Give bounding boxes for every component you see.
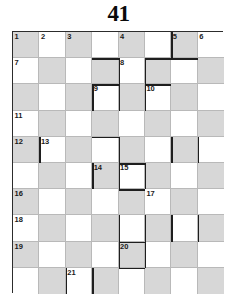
crossword-cell[interactable]	[92, 137, 118, 163]
crossword-cell[interactable]: 10	[145, 84, 171, 110]
crossword-cell[interactable]	[66, 163, 92, 189]
crossword-cell[interactable]	[198, 163, 224, 189]
word-boundary-edge	[171, 215, 173, 241]
crossword-cell[interactable]	[119, 215, 145, 241]
crossword-cell[interactable]	[198, 84, 224, 110]
word-boundary-edge	[145, 84, 147, 110]
crossword-cell[interactable]	[171, 215, 197, 241]
crossword-cell[interactable]	[145, 58, 171, 84]
crossword-cell[interactable]	[145, 137, 171, 163]
crossword-cell[interactable]	[92, 242, 118, 268]
crossword-cell[interactable]: 19	[13, 242, 39, 268]
clue-number: 17	[146, 189, 154, 198]
crossword-cell[interactable]	[145, 268, 171, 294]
word-boundary-edge	[119, 58, 121, 84]
crossword-cell[interactable]	[92, 111, 118, 137]
crossword-cell[interactable]	[39, 215, 65, 241]
word-boundary-edge	[119, 242, 145, 244]
crossword-cell[interactable]: 3	[66, 32, 92, 58]
crossword-cell[interactable]	[145, 163, 171, 189]
crossword-cell[interactable]	[145, 215, 171, 241]
page-title: 41	[0, 1, 237, 26]
crossword-cell[interactable]	[92, 189, 118, 215]
crossword-cell[interactable]: 6	[198, 32, 224, 58]
word-boundary-edge	[119, 163, 121, 189]
crossword-cell[interactable]	[171, 84, 197, 110]
crossword-cell[interactable]	[145, 242, 171, 268]
crossword-cell[interactable]	[92, 215, 118, 241]
crossword-cell[interactable]: 14	[92, 163, 118, 189]
crossword-cell[interactable]	[13, 163, 39, 189]
crossword-cell[interactable]: 15	[119, 163, 145, 189]
crossword-cell[interactable]	[92, 32, 118, 58]
crossword-cell[interactable]	[39, 163, 65, 189]
word-boundary-edge	[92, 58, 118, 60]
crossword-cell[interactable]	[39, 111, 65, 137]
crossword-cell[interactable]	[198, 137, 224, 163]
clue-number: 1	[15, 32, 19, 41]
crossword-cell[interactable]	[171, 189, 197, 215]
crossword-cell[interactable]	[171, 163, 197, 189]
crossword-cell[interactable]	[66, 84, 92, 110]
crossword-cell[interactable]	[66, 111, 92, 137]
crossword-cell[interactable]	[39, 242, 65, 268]
crossword-cell[interactable]	[92, 58, 118, 84]
crossword-cell[interactable]: 4	[119, 32, 145, 58]
crossword-cell[interactable]: 5	[171, 32, 197, 58]
crossword-cell[interactable]: 8	[119, 58, 145, 84]
clue-number: 21	[67, 268, 75, 277]
crossword-cell[interactable]: 11	[13, 111, 39, 137]
word-boundary-edge	[119, 242, 121, 268]
crossword-cell[interactable]: 13	[39, 137, 65, 163]
crossword-grid-border: 123456789101112131415161718192021	[12, 31, 223, 293]
word-boundary-edge	[92, 163, 94, 189]
crossword-cell[interactable]	[145, 32, 171, 58]
crossword-cell[interactable]	[39, 268, 65, 294]
crossword-cell[interactable]	[171, 242, 197, 268]
crossword-cell[interactable]	[66, 215, 92, 241]
crossword-cell[interactable]	[39, 189, 65, 215]
crossword-cell[interactable]	[119, 268, 145, 294]
crossword-cell[interactable]	[198, 111, 224, 137]
crossword-cell[interactable]	[171, 268, 197, 294]
crossword-cell[interactable]: 9	[92, 84, 118, 110]
crossword-cell[interactable]	[171, 58, 197, 84]
crossword-cell[interactable]	[145, 111, 171, 137]
crossword-cell[interactable]	[119, 189, 145, 215]
crossword-cell[interactable]	[66, 189, 92, 215]
crossword-cell[interactable]	[66, 137, 92, 163]
crossword-cell[interactable]: 21	[66, 268, 92, 294]
crossword-cell[interactable]	[92, 268, 118, 294]
word-boundary-edge	[145, 84, 171, 86]
crossword-cell[interactable]: 20	[119, 242, 145, 268]
crossword-cell[interactable]: 17	[145, 189, 171, 215]
crossword-cell[interactable]	[119, 137, 145, 163]
clue-number: 19	[15, 242, 23, 251]
crossword-cell[interactable]: 1	[13, 32, 39, 58]
crossword-cell[interactable]	[39, 58, 65, 84]
crossword-cell[interactable]	[119, 84, 145, 110]
crossword-cell[interactable]	[198, 215, 224, 241]
crossword-cell[interactable]	[13, 268, 39, 294]
crossword-cell[interactable]	[66, 242, 92, 268]
crossword-cell[interactable]	[198, 242, 224, 268]
crossword-cell[interactable]	[171, 111, 197, 137]
crossword-cell[interactable]	[198, 58, 224, 84]
crossword-cell[interactable]: 2	[39, 32, 65, 58]
crossword-cell[interactable]	[66, 58, 92, 84]
crossword-cell[interactable]: 18	[13, 215, 39, 241]
crossword-cell[interactable]	[171, 137, 197, 163]
crossword-cell[interactable]	[119, 111, 145, 137]
crossword-cell[interactable]	[13, 84, 39, 110]
crossword-grid[interactable]: 123456789101112131415161718192021	[12, 31, 223, 293]
word-boundary-edge	[145, 58, 147, 84]
crossword-cell[interactable]: 16	[13, 189, 39, 215]
word-boundary-edge	[171, 32, 173, 58]
crossword-cell[interactable]	[198, 189, 224, 215]
crossword-cell[interactable]: 12	[13, 137, 39, 163]
word-boundary-edge	[92, 137, 118, 139]
crossword-cell[interactable]	[198, 268, 224, 294]
crossword-cell[interactable]: 7	[13, 58, 39, 84]
crossword-cell[interactable]	[39, 84, 65, 110]
clue-number: 18	[15, 215, 23, 224]
